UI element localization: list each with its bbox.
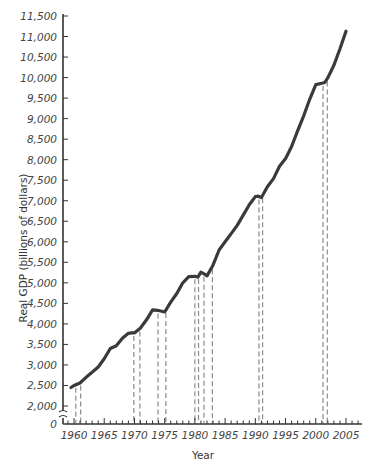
x-tick-label: 1990 <box>242 429 269 441</box>
x-tick-label: 1965 <box>91 429 118 441</box>
y-tick-label: 9,500 <box>27 92 57 104</box>
y-tick-label: 0 <box>50 418 57 430</box>
y-tick-label: 10,500 <box>20 51 57 63</box>
y-tick-label: 7,000 <box>27 195 57 207</box>
y-tick-label: 11,500 <box>20 10 57 22</box>
x-axis-title: Year <box>191 449 215 461</box>
y-tick-label: 5,000 <box>27 277 57 289</box>
y-tick-label: 6,500 <box>27 215 57 227</box>
y-tick-label: 2,500 <box>27 379 57 391</box>
x-tick-label: 1985 <box>212 429 239 441</box>
x-tick-label: 2005 <box>333 429 360 441</box>
recession-markers <box>76 82 327 423</box>
y-tick-label: 3,000 <box>27 359 57 371</box>
y-tick-label: 7,500 <box>27 174 57 186</box>
y-tick-label: 8,500 <box>27 133 57 145</box>
y-tick-label: 6,000 <box>27 236 57 248</box>
x-tick-label: 1975 <box>151 429 178 441</box>
y-tick-label: 5,500 <box>27 256 57 268</box>
y-tick-label: 10,000 <box>20 72 57 84</box>
y-axis-title: Real GDP (billions of dollars) <box>17 174 29 323</box>
y-tick-label: 9,000 <box>27 113 57 125</box>
gdp-line <box>71 31 346 387</box>
x-tick-label: 1980 <box>182 429 209 441</box>
x-axis: 1960196519701975198019851990199520002005 <box>61 418 362 441</box>
x-tick-label: 1960 <box>61 429 88 441</box>
y-tick-label: 4,500 <box>27 297 57 309</box>
y-tick-label: 2,000 <box>27 400 57 412</box>
x-tick-label: 2000 <box>302 429 329 441</box>
x-tick-label: 1995 <box>272 429 299 441</box>
y-tick-label: 3,500 <box>27 338 57 350</box>
y-tick-label: 11,000 <box>20 31 57 43</box>
x-tick-label: 1970 <box>121 429 148 441</box>
real-gdp-chart: 02,0002,5003,0003,5004,0004,5005,0005,50… <box>0 0 382 470</box>
y-tick-label: 4,000 <box>27 318 57 330</box>
y-tick-label: 8,000 <box>27 154 57 166</box>
